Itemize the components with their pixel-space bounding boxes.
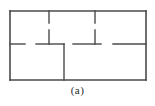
- figure-container: (a): [0, 0, 155, 106]
- figure-caption: (a): [0, 84, 155, 96]
